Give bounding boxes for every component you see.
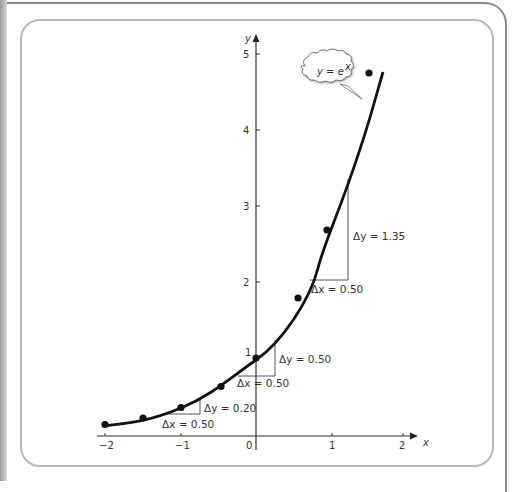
triangle2-dy-label: Δy = 0.50 (279, 353, 331, 365)
y-tick-label: 3 (243, 201, 249, 212)
x-tick-label: −1 (175, 440, 190, 451)
triangle1-dy-label: Δy = 0.20 (204, 402, 256, 414)
x-tick-label: −2 (99, 440, 114, 451)
curve-label-exponent: x (344, 61, 351, 72)
x-axis-label: x (422, 437, 429, 448)
y-tick-label: 5 (243, 49, 249, 60)
curve-label-text: y = e (316, 66, 344, 77)
y-axis-label: y (244, 33, 252, 44)
triangle3-dx-label: Δx = 0.50 (311, 283, 363, 295)
y-axis-arrow-icon (253, 34, 260, 42)
curve-label-bubble: y = e x (301, 49, 362, 99)
origin-label: 0 (246, 440, 252, 451)
x-tick-label: 1 (329, 440, 335, 451)
y-tick-label: 2 (243, 277, 249, 288)
triangle2-dx-label: Δx = 0.50 (237, 377, 289, 389)
y-tick-label: 4 (243, 125, 249, 136)
y-ticks: 1 2 3 4 5 (243, 49, 260, 358)
triangle3-dy-label: Δy = 1.35 (353, 230, 405, 242)
x-axis-arrow-icon (410, 433, 418, 440)
x-tick-label: 2 (399, 440, 405, 451)
y-tick-label: 1 (245, 347, 251, 358)
triangle1-dx-label: Δx = 0.50 (162, 418, 214, 430)
